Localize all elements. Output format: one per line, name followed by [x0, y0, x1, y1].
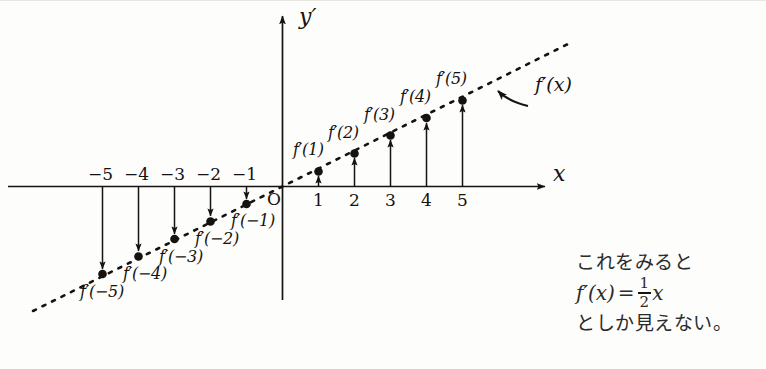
curve-callout-arrow — [498, 91, 528, 106]
x-tick-neg-2: −2 — [196, 166, 221, 183]
data-point-n1 — [242, 200, 251, 209]
data-point-p1 — [314, 167, 323, 176]
equation-variable: x — [652, 278, 663, 308]
point-label-p5: f′(5) — [436, 71, 467, 87]
derivative-line-dashed — [33, 42, 572, 311]
equation-lhs: f′(x) — [576, 278, 615, 308]
point-label-n2: f′(−2) — [195, 231, 239, 247]
note-equation: f′(x) = 1 2 x — [576, 278, 732, 308]
equation-equals: = — [618, 278, 635, 308]
data-point-n5 — [98, 270, 107, 279]
x-tick-neg-5: −5 — [88, 166, 113, 183]
note-line-3: としか見えない。 — [576, 309, 732, 338]
data-point-p5 — [458, 96, 467, 105]
fraction-denominator: 2 — [638, 295, 652, 310]
point-label-p2: f′(2) — [328, 125, 359, 141]
x-tick-3: 3 — [385, 192, 396, 209]
x-tick-4: 4 — [421, 192, 432, 209]
derivative-scatter-figure: x y′ O 1 2 3 4 5 −5 −4 −3 −2 −1 f′(1) f′… — [0, 0, 766, 369]
x-tick-neg-1: −1 — [232, 166, 257, 183]
curve-label: f′(x) — [535, 75, 572, 94]
origin-label: O — [267, 191, 281, 208]
data-point-p3 — [386, 131, 395, 140]
data-point-p2 — [350, 149, 359, 158]
x-tick-neg-4: −4 — [124, 166, 149, 183]
data-point-p4 — [422, 114, 431, 123]
data-point-n4 — [134, 252, 143, 261]
point-label-n3: f′(−3) — [159, 249, 203, 265]
x-axis-label: x — [553, 163, 565, 185]
point-label-n1: f′(−1) — [231, 213, 275, 229]
explanatory-note: これをみると f′(x) = 1 2 x としか見えない。 — [576, 248, 732, 338]
point-label-n4: f′(−4) — [123, 266, 167, 282]
fraction-numerator: 1 — [638, 276, 652, 291]
point-label-n5: f′(−5) — [80, 284, 124, 300]
y-axis-label: y′ — [299, 6, 316, 28]
data-point-n3 — [170, 235, 179, 244]
data-point-n2 — [206, 217, 215, 226]
fraction-one-half: 1 2 — [638, 276, 652, 310]
note-line-1: これをみると — [576, 248, 732, 277]
x-tick-neg-3: −3 — [160, 166, 185, 183]
point-label-p1: f′(1) — [293, 142, 324, 158]
x-tick-1: 1 — [313, 192, 324, 209]
x-tick-5: 5 — [457, 192, 468, 209]
point-label-p3: f′(3) — [364, 107, 395, 123]
point-label-p4: f′(4) — [400, 89, 431, 105]
x-tick-2: 2 — [349, 192, 360, 209]
